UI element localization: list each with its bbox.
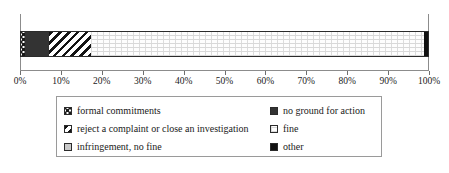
x-axis-label-70: 70% — [286, 75, 326, 87]
legend-label: formal commitments — [77, 105, 161, 117]
legend-column-right: no ground for action fine other — [270, 102, 380, 156]
legend-swatch-stipple-icon — [270, 125, 278, 133]
legend-item-formal-commitments[interactable]: formal commitments — [64, 102, 270, 119]
x-axis-label-20: 20% — [82, 75, 122, 87]
legend-label: reject a complaint or close an investiga… — [77, 123, 249, 135]
bar-segment-reject-complaint[interactable] — [49, 31, 91, 57]
x-axis-label-0: 0% — [0, 75, 40, 87]
bar-segment-other[interactable] — [424, 31, 429, 57]
legend-swatch-dots-icon — [64, 107, 72, 115]
legend-item-infringement-no-fine[interactable]: infringement, no fine — [64, 138, 270, 155]
legend-column-left: formal commitments reject a complaint or… — [64, 102, 270, 156]
legend-swatch-solid-black-icon — [270, 143, 278, 151]
x-axis-label-80: 80% — [327, 75, 367, 87]
legend-item-reject-complaint[interactable]: reject a complaint or close an investiga… — [64, 120, 270, 137]
bar-segment-fine[interactable] — [91, 31, 424, 57]
legend: formal commitments reject a complaint or… — [56, 96, 382, 157]
x-axis-label-30: 30% — [123, 75, 163, 87]
x-axis-label-50: 50% — [205, 75, 245, 87]
legend-swatch-light-grey-icon — [64, 143, 72, 151]
legend-swatch-solid-dark-icon — [270, 107, 278, 115]
legend-label: no ground for action — [283, 105, 365, 117]
x-axis-label-90: 90% — [368, 75, 408, 87]
legend-label: infringement, no fine — [77, 141, 162, 153]
x-axis-label-60: 60% — [245, 75, 285, 87]
stacked-bar-row — [20, 31, 429, 57]
stacked-bar-chart: 0% 10% 20% 30% 40% 50% 60% 70% 80% 90% 1… — [0, 0, 449, 173]
legend-swatch-hatch-icon — [64, 125, 72, 133]
x-axis-label-40: 40% — [164, 75, 204, 87]
x-axis-label-100: 100% — [409, 75, 449, 87]
bar-segment-no-ground-for-action[interactable] — [25, 31, 49, 57]
legend-label: fine — [283, 123, 299, 135]
legend-label: other — [283, 141, 304, 153]
legend-item-other[interactable]: other — [270, 138, 380, 155]
x-axis-label-10: 10% — [41, 75, 81, 87]
legend-item-fine[interactable]: fine — [270, 120, 380, 137]
legend-item-no-ground-for-action[interactable]: no ground for action — [270, 102, 380, 119]
